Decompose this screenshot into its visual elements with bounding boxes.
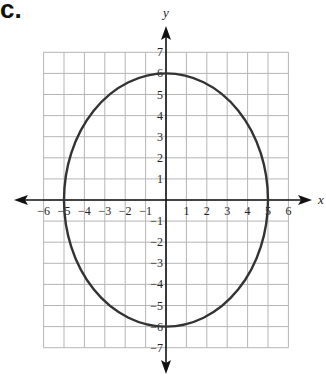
y-tick-label: 5 (157, 88, 163, 102)
x-tick-label: −4 (78, 204, 91, 218)
y-tick-label: 2 (157, 151, 163, 165)
y-tick-label: 3 (157, 130, 163, 144)
y-tick-label: −5 (150, 299, 163, 313)
y-tick-label: −2 (150, 235, 163, 249)
y-tick-label: −4 (150, 277, 163, 291)
y-tick-label: −1 (150, 214, 163, 228)
x-tick-label: 2 (204, 204, 210, 218)
x-tick-label: 3 (224, 204, 230, 218)
y-tick-label: 4 (157, 109, 163, 123)
x-tick-label: 1 (183, 204, 189, 218)
x-tick-label: 6 (285, 204, 291, 218)
x-tick-label: −6 (37, 204, 50, 218)
y-tick-label: 7 (157, 45, 163, 59)
y-tick-label: −3 (150, 256, 163, 270)
x-tick-label: 4 (245, 204, 251, 218)
axes: xy (14, 5, 324, 374)
y-tick-label: −7 (150, 341, 163, 355)
x-tick-label: −3 (98, 204, 111, 218)
x-axis-label: x (317, 192, 324, 207)
x-tick-label: −2 (119, 204, 132, 218)
y-tick-label: 1 (157, 172, 163, 186)
y-axis-label: y (161, 5, 169, 20)
ellipse-graph: xy −6−5−4−3−2−11234567654321−1−2−3−4−5−6… (0, 0, 326, 382)
